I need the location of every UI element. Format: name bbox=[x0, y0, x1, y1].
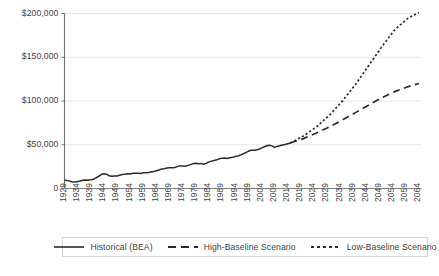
x-axis-label: 1944 bbox=[97, 182, 107, 201]
chart-legend: Historical (BEA)High-Baseline ScenarioLo… bbox=[62, 237, 428, 257]
y-axis-label: $200,000 bbox=[22, 8, 59, 18]
chart-container: 0$50,000$100,000$150,000$200,000 1929193… bbox=[0, 0, 439, 276]
x-axis-label: 1994 bbox=[229, 182, 239, 201]
x-axis-label: 1949 bbox=[110, 182, 120, 201]
line-chart bbox=[0, 0, 439, 276]
x-axis-label: 2044 bbox=[360, 182, 370, 201]
x-axis-label: 2014 bbox=[281, 182, 291, 201]
x-axis-label: 1939 bbox=[84, 182, 94, 201]
x-axis-label: 1954 bbox=[124, 182, 134, 201]
x-axis-label: 1959 bbox=[137, 182, 147, 201]
x-axis-label: 2054 bbox=[386, 182, 396, 201]
series-line-solid bbox=[65, 143, 291, 182]
legend-item: Historical (BEA) bbox=[53, 242, 152, 252]
x-axis-label: 1974 bbox=[176, 182, 186, 201]
legend-line-swatch-dotted bbox=[310, 243, 342, 251]
y-axis-label: $100,000 bbox=[22, 95, 59, 105]
legend-line-swatch-dashed bbox=[167, 243, 199, 251]
x-axis-label: 1969 bbox=[163, 182, 173, 201]
legend-item: High-Baseline Scenario bbox=[167, 242, 296, 252]
x-axis-label: 2009 bbox=[268, 182, 278, 201]
x-axis-label: 1934 bbox=[71, 182, 81, 201]
legend-label: Low-Baseline Scenario bbox=[347, 242, 437, 252]
legend-item: Low-Baseline Scenario bbox=[310, 242, 437, 252]
legend-line-swatch-solid bbox=[53, 243, 85, 251]
series-line-dotted bbox=[290, 13, 419, 143]
x-axis-label: 2064 bbox=[412, 182, 422, 201]
x-axis-label: 2039 bbox=[347, 182, 357, 201]
x-axis-label: 1989 bbox=[215, 182, 225, 201]
y-axis-label: $50,000 bbox=[27, 139, 59, 149]
x-axis-label: 1979 bbox=[189, 182, 199, 201]
x-axis-label: 2049 bbox=[373, 182, 383, 201]
legend-label: High-Baseline Scenario bbox=[204, 242, 296, 252]
x-axis-label: 1984 bbox=[202, 182, 212, 201]
x-axis-label: 2019 bbox=[294, 182, 304, 201]
legend-label: Historical (BEA) bbox=[90, 242, 152, 252]
series-line-dashed bbox=[290, 84, 419, 144]
x-axis-label: 1929 bbox=[58, 182, 68, 201]
x-axis-label: 2034 bbox=[334, 182, 344, 201]
x-axis-label: 1964 bbox=[150, 182, 160, 201]
x-axis-label: 2024 bbox=[307, 182, 317, 201]
x-axis-label: 2029 bbox=[320, 182, 330, 201]
x-axis-label: 2059 bbox=[399, 182, 409, 201]
y-axis-label: $150,000 bbox=[22, 51, 59, 61]
x-axis-label: 2004 bbox=[255, 182, 265, 201]
x-axis-label: 1999 bbox=[242, 182, 252, 201]
